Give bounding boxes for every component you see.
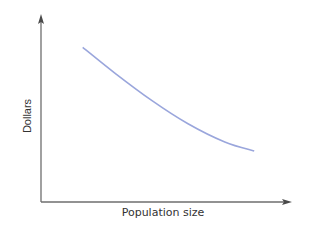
x-axis-label: Population size	[122, 206, 205, 219]
chart: Population size Dollars	[0, 0, 309, 230]
y-axis-label: Dollars	[21, 98, 33, 133]
series-line	[83, 47, 255, 151]
